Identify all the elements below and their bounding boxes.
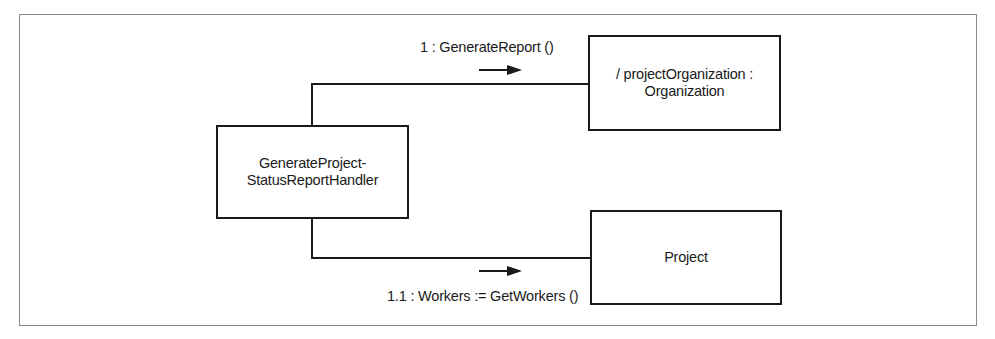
object-class: Organization — [616, 83, 753, 100]
object-project[interactable]: Project — [590, 210, 782, 305]
object-name: Project — [664, 249, 708, 266]
message-arrow-icon — [479, 65, 522, 75]
message-label-generate-report: 1 : GenerateReport () — [420, 39, 554, 55]
message-arrow-icon — [479, 266, 522, 276]
link-handler-organization — [312, 84, 589, 126]
object-name: StatusReportHandler — [247, 172, 379, 189]
object-organization[interactable]: / projectOrganization : Organization — [588, 35, 781, 131]
message-label-get-workers: 1.1 : Workers := GetWorkers () — [387, 288, 578, 304]
object-handler[interactable]: GenerateProject- StatusReportHandler — [216, 125, 409, 219]
object-name: / projectOrganization : — [616, 66, 753, 83]
object-name: GenerateProject- — [247, 155, 379, 172]
link-handler-project — [312, 217, 591, 258]
